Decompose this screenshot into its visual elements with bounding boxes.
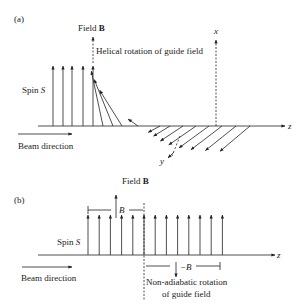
beam-direction-label-a: Beam direction xyxy=(18,141,74,151)
spin-arrow xyxy=(154,126,170,136)
x-axis-label: x xyxy=(213,26,218,36)
panel-b-label: (b) xyxy=(14,195,25,205)
field-b-top-label: Field B xyxy=(78,23,105,33)
spin-arrow xyxy=(179,126,209,148)
panel-a-label: (a) xyxy=(14,14,24,24)
spin-arrow xyxy=(169,126,196,145)
spin-arrow xyxy=(220,126,250,151)
panel-a: (a) Field B Helical rotation of guide fi… xyxy=(14,14,292,186)
field-b-bottom-label: Field B xyxy=(122,176,149,186)
z-axis-label-b: z xyxy=(276,250,281,260)
spin-label-b: Spin S xyxy=(57,237,81,247)
field-minus-b-label: −B xyxy=(180,262,192,272)
spin-arrow xyxy=(148,126,160,132)
z-axis-label-a: z xyxy=(287,121,292,131)
spin-arrow xyxy=(205,126,236,151)
panel-b: (b) B z −B Non-adiabatic rotation of gui… xyxy=(14,195,281,300)
spin-arrow xyxy=(191,126,222,150)
helical-rotation-label: Helical rotation of guide field xyxy=(96,46,203,56)
spin-arrow xyxy=(94,80,113,126)
spin-label-a: Spin S xyxy=(22,85,46,95)
spin-arrow xyxy=(160,126,183,141)
spin-arrows-a xyxy=(53,66,250,151)
spin-rotation-diagram: (a) Field B Helical rotation of guide fi… xyxy=(0,0,299,304)
spin-arrows-b xyxy=(88,215,222,255)
spin-arrow xyxy=(128,119,138,126)
field-plus-b-label: B xyxy=(119,205,125,215)
non-adiabatic-label-line2: of guide field xyxy=(162,289,211,299)
beam-direction-label-b: Beam direction xyxy=(21,273,77,283)
y-axis-label: y xyxy=(159,156,164,166)
y-axis-arrow xyxy=(168,152,174,158)
non-adiabatic-label-line1: Non-adiabatic rotation xyxy=(146,277,228,287)
